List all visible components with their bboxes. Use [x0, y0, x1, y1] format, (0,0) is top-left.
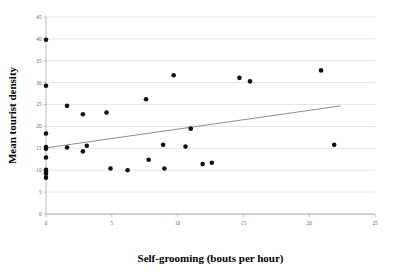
- data-point: [146, 157, 151, 162]
- data-point: [84, 143, 89, 148]
- y-tick-label: 45: [36, 14, 42, 20]
- y-tick-label: 10: [36, 167, 42, 173]
- data-point-series: [44, 37, 337, 180]
- y-tick-label: 40: [36, 36, 42, 42]
- data-point: [188, 126, 193, 131]
- data-point: [81, 149, 86, 154]
- y-tick-label: 20: [36, 123, 42, 129]
- x-axis-ticks: 0510152025: [45, 214, 378, 226]
- data-point: [104, 110, 109, 115]
- data-point: [332, 143, 337, 148]
- data-point: [44, 171, 49, 176]
- data-point: [44, 131, 49, 136]
- x-tick-label: 10: [175, 220, 181, 226]
- data-point: [162, 166, 167, 171]
- trendline: [46, 106, 341, 148]
- data-point: [44, 83, 49, 88]
- x-tick-label: 5: [111, 220, 114, 226]
- data-point: [200, 162, 205, 167]
- x-tick-label: 0: [45, 220, 48, 226]
- scatter-plot-figure: 0510152025303540450510152025Self-groomin…: [0, 0, 408, 271]
- data-point: [248, 79, 253, 84]
- data-point: [65, 145, 70, 150]
- data-point: [210, 160, 215, 165]
- data-point: [44, 175, 49, 180]
- x-axis-title: Self-grooming (bouts per hour): [138, 252, 284, 265]
- data-point: [108, 166, 113, 171]
- data-point: [183, 144, 188, 149]
- y-tick-label: 30: [36, 80, 42, 86]
- y-tick-label: 25: [36, 101, 42, 107]
- data-point: [237, 76, 242, 81]
- data-point: [171, 73, 176, 78]
- data-point: [161, 143, 166, 148]
- y-tick-label: 35: [36, 58, 42, 64]
- gridlines: 051015202530354045: [36, 14, 375, 217]
- y-tick-label: 5: [39, 189, 42, 195]
- data-point: [65, 104, 70, 109]
- data-point: [144, 97, 149, 102]
- x-tick-label: 15: [241, 220, 247, 226]
- y-axis-title: Mean tourist density: [6, 66, 18, 164]
- data-point: [44, 37, 49, 42]
- y-tick-label: 15: [36, 145, 42, 151]
- data-point: [125, 168, 130, 173]
- x-tick-label: 20: [307, 220, 313, 226]
- data-point: [44, 155, 49, 160]
- data-point: [81, 112, 86, 117]
- data-point: [44, 146, 49, 151]
- chart-canvas: 0510152025303540450510152025Self-groomin…: [0, 0, 408, 271]
- x-tick-label: 25: [372, 220, 378, 226]
- data-point: [319, 68, 324, 73]
- y-tick-label: 0: [39, 211, 42, 217]
